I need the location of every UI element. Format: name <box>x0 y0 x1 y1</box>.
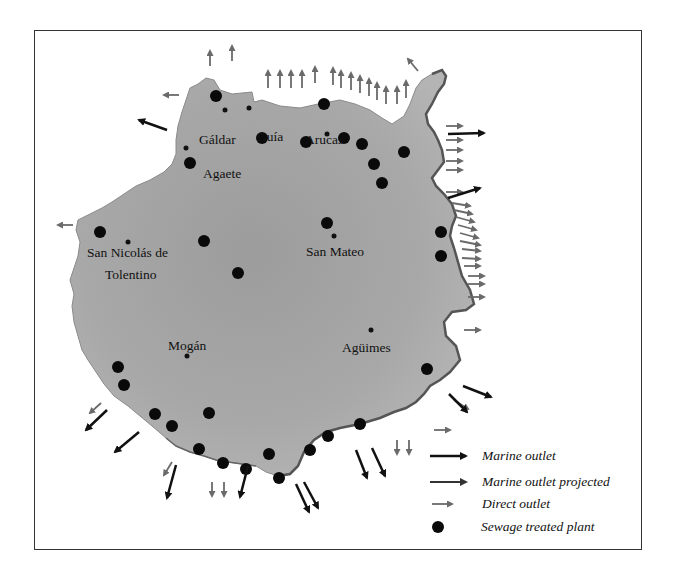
town-label-san-nicolas-1: San Nicolás de <box>87 245 168 260</box>
legend-direct-outlet-label: Direct outlet <box>481 496 551 511</box>
legend: Marine outlet Marine outlet projected Di… <box>430 448 610 534</box>
town-label-galdar: Gáldar <box>199 132 236 147</box>
map-figure: Gáldar Guía Arucas Agaete San Nicolás de… <box>0 0 677 584</box>
town-label-mogan: Mogán <box>168 338 206 353</box>
town-label-san-mateo: San Mateo <box>306 244 364 259</box>
town-label-aguimes: Agüimes <box>342 340 391 355</box>
legend-sewage-plant-label: Sewage treated plant <box>481 519 596 534</box>
town-label-san-nicolas-2: Tolentino <box>105 267 157 282</box>
town-label-arucas: Arucas <box>305 132 343 147</box>
legend-marine-outlet-projected-label: Marine outlet projected <box>481 474 610 489</box>
island-map: Gáldar Guía Arucas Agaete San Nicolás de… <box>0 0 677 584</box>
legend-marine-outlet-label: Marine outlet <box>481 448 557 463</box>
legend-sewage-plant-dot <box>432 521 444 533</box>
town-label-agaete: Agaete <box>203 166 241 181</box>
town-label-guia: Guía <box>257 129 283 144</box>
